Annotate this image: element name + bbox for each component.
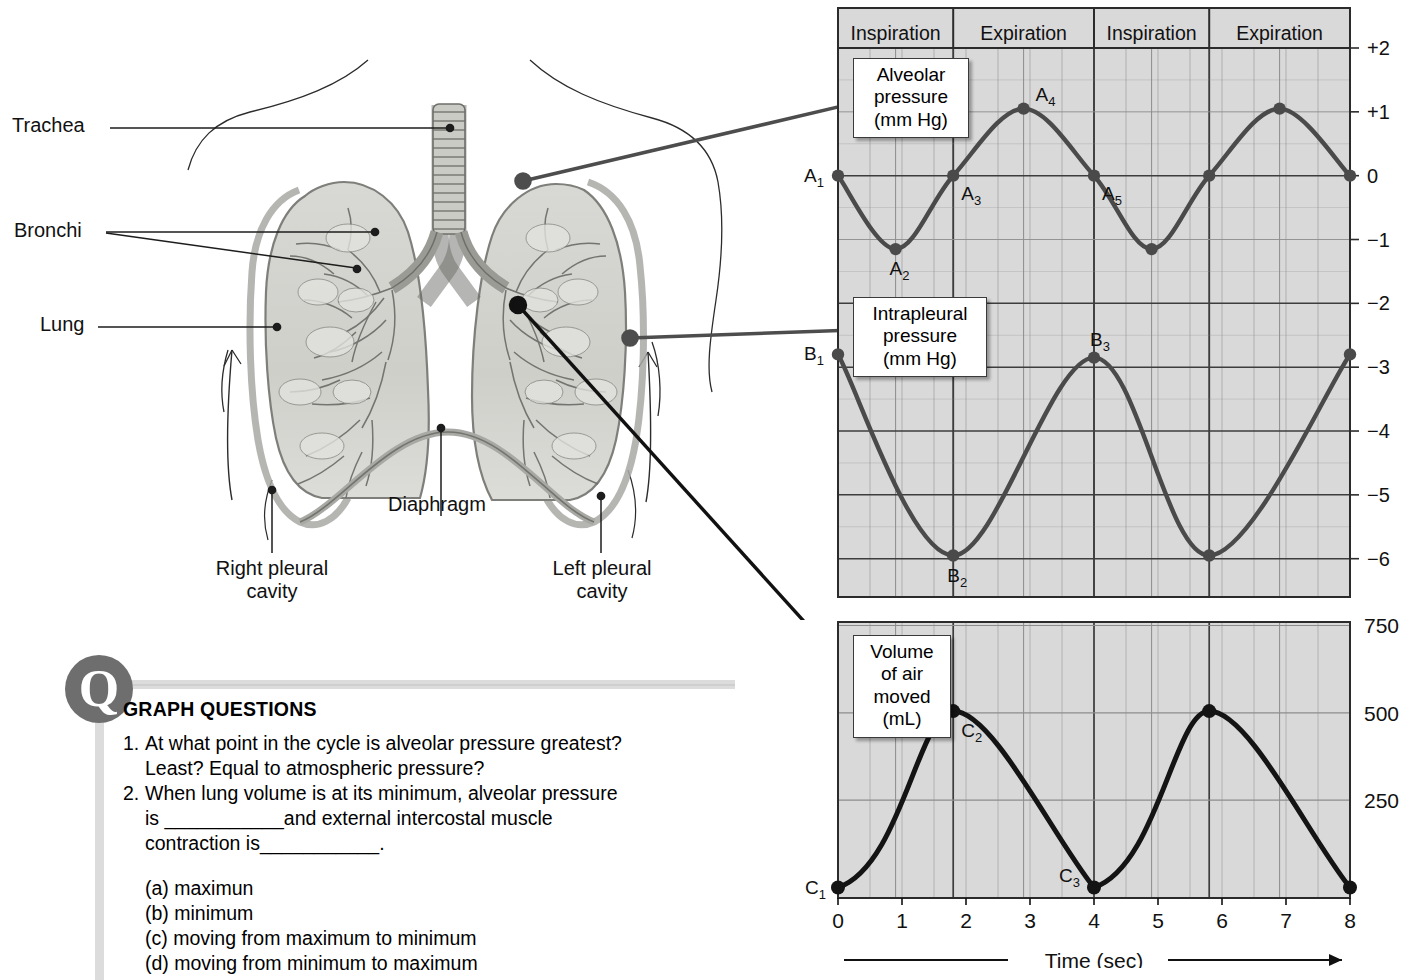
- callout-alveolar-pressure: Alveolar pressure (mm Hg): [853, 58, 969, 138]
- data-point-alveolar-2: [947, 169, 959, 181]
- graph-questions-heading: GRAPH QUESTIONS: [123, 698, 763, 721]
- data-point-alveolar-4: [1088, 169, 1100, 181]
- pressure-ytick-2: 0: [1367, 165, 1378, 187]
- pressure-ytick-7: −5: [1367, 484, 1390, 506]
- label-lung: Lung: [40, 313, 85, 336]
- pressure-ytick-5: −3: [1367, 356, 1390, 378]
- volume-ytick-1: 500: [1364, 702, 1399, 725]
- time-tick-4: 4: [1088, 909, 1100, 932]
- phase-label-0: Inspiration: [851, 22, 941, 44]
- pressure-ytick-4: −2: [1367, 292, 1390, 314]
- pressure-ytick-1: +1: [1367, 101, 1390, 123]
- data-point-intrapleural-2: [1088, 351, 1100, 363]
- phase-label-1: Expiration: [980, 22, 1067, 44]
- time-tick-0: 0: [832, 909, 844, 932]
- graph-questions-block: Q GRAPH QUESTIONS 1. At what point in th…: [55, 650, 775, 980]
- decor-bar-vertical: [95, 684, 104, 980]
- data-point-alveolar-3: [1017, 102, 1029, 114]
- data-point-alveolar-0: [832, 169, 844, 181]
- label-trachea: Trachea: [12, 114, 85, 137]
- question-2-line2: is ___________and external intercostal m…: [145, 807, 553, 829]
- pressure-ytick-6: −4: [1367, 420, 1390, 442]
- data-point-intrapleural-4: [1344, 348, 1356, 360]
- time-tick-2: 2: [960, 909, 972, 932]
- pressure-ytick-8: −6: [1367, 548, 1390, 570]
- lung-anatomy-diagram: Trachea Bronchi Lung Diaphragm Right ple…: [0, 0, 840, 620]
- point-label-A1: A1: [804, 165, 824, 190]
- trachea-structure: [392, 104, 506, 302]
- x-axis-label: Time (sec): [1045, 949, 1143, 968]
- pressure-ytick-0: +2: [1367, 37, 1390, 59]
- option-b: (b) minimum: [145, 901, 763, 926]
- question-item-2: 2. When lung volume is at its minimum, a…: [123, 781, 763, 856]
- phase-label-2: Inspiration: [1107, 22, 1197, 44]
- time-tick-5: 5: [1152, 909, 1164, 932]
- time-tick-1: 1: [896, 909, 908, 932]
- data-point-alveolar-1: [889, 243, 901, 255]
- data-point-volume-3: [1202, 704, 1216, 718]
- point-label-C1: C1: [805, 877, 826, 902]
- option-c: (c) moving from maximum to minimum: [145, 926, 763, 951]
- option-d: (d) moving from minimum to maximum: [145, 951, 763, 976]
- callout-intrapleural-pressure: Intrapleural pressure (mm Hg): [853, 297, 987, 377]
- label-left-pleural-cavity: Left pleural cavity: [516, 557, 688, 603]
- volume-ytick-2: 250: [1364, 789, 1399, 812]
- label-diaphragm: Diaphragm: [388, 493, 486, 516]
- question-1-number: 1.: [123, 731, 145, 781]
- point-label-B1: B1: [804, 343, 824, 368]
- pressure-ytick-3: −1: [1367, 229, 1390, 251]
- data-point-volume-2: [1087, 881, 1101, 895]
- data-point-volume-4: [1343, 881, 1357, 895]
- phase-label-3: Expiration: [1236, 22, 1323, 44]
- data-point-intrapleural-1: [947, 549, 959, 561]
- label-bronchi: Bronchi: [14, 219, 82, 242]
- question-item-1: 1. At what point in the cycle is alveola…: [123, 731, 763, 781]
- question-2-line1: When lung volume is at its minimum, alve…: [145, 782, 618, 804]
- lung-illustration: [0, 0, 840, 620]
- time-tick-6: 6: [1216, 909, 1228, 932]
- data-point-alveolar-5: [1145, 243, 1157, 255]
- data-point-alveolar-7: [1273, 102, 1285, 114]
- question-1-line2: Least? Equal to atmospheric pressure?: [145, 757, 484, 779]
- time-tick-8: 8: [1344, 909, 1356, 932]
- option-a: (a) maximun: [145, 876, 763, 901]
- data-point-volume-0: [831, 881, 845, 895]
- question-1-line1: At what point in the cycle is alveolar p…: [145, 732, 622, 754]
- graphs-panel: InspirationExpirationInspirationExpirati…: [780, 0, 1416, 980]
- data-point-alveolar-8: [1344, 169, 1356, 181]
- label-right-pleural-cavity: Right pleural cavity: [186, 557, 358, 603]
- time-tick-3: 3: [1024, 909, 1036, 932]
- data-point-alveolar-6: [1203, 169, 1215, 181]
- question-2-number: 2.: [123, 781, 145, 856]
- data-point-intrapleural-0: [832, 348, 844, 360]
- data-point-intrapleural-3: [1203, 549, 1215, 561]
- time-tick-7: 7: [1280, 909, 1292, 932]
- question-2-line3: contraction is___________.: [145, 832, 385, 854]
- callout-volume-of-air: Volume of air moved (mL): [853, 635, 951, 738]
- volume-ytick-0: 750: [1364, 614, 1399, 637]
- question-badge-letter: Q: [79, 660, 119, 717]
